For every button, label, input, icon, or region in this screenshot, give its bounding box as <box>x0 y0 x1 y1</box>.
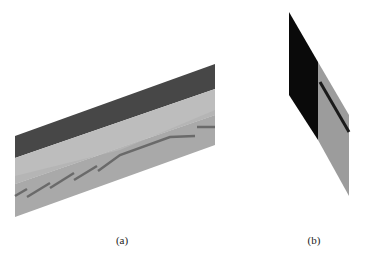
panel-b-block <box>289 12 349 196</box>
figure-graphics <box>0 0 367 259</box>
black-layer <box>289 12 318 140</box>
caption-a: (a) <box>116 234 128 246</box>
caption-b: (b) <box>308 234 321 246</box>
panel-a-block <box>15 64 215 217</box>
gray-layer <box>318 62 349 196</box>
figure: (a) (b) <box>0 0 367 259</box>
